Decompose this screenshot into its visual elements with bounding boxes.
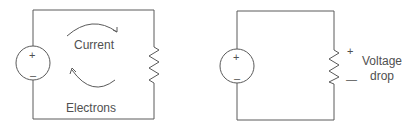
current-arrow-icon [67,24,117,36]
right-source-plus: + [233,52,239,63]
right-source-minus: – [234,73,240,84]
right-circuit-wires [237,11,334,120]
electrons-label: Electrons [66,102,116,115]
left-resistor-icon [149,47,159,83]
voltage-label: Voltage [362,55,402,68]
left-source-minus: – [30,70,36,81]
resistor-minus: — [346,74,357,85]
resistor-plus: + [347,46,353,57]
circuit-diagram [0,0,417,127]
current-label: Current [74,39,114,52]
electron-arrow-icon [70,68,115,87]
left-source-plus: + [29,50,35,61]
drop-label: drop [370,70,394,83]
right-resistor-icon [329,50,339,84]
